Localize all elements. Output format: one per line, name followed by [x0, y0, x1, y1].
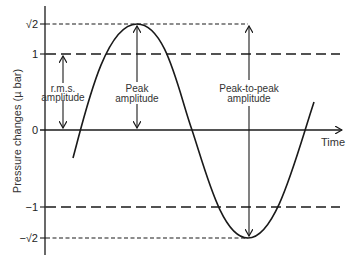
- tick-label-zero: 0: [32, 124, 38, 136]
- x-axis-title: Time: [321, 136, 345, 148]
- tick-label-sqrt2: √2: [26, 18, 38, 30]
- peak-label-line2: amplitude: [115, 93, 159, 104]
- tick-label-minus-one: −1: [25, 201, 38, 213]
- sine-wave-diagram: √2 1 0 −1 −√2 Pressure changes (µ bar) T…: [0, 0, 361, 262]
- rms-label-line2: amplitude: [41, 92, 85, 103]
- sine-wave-curve: [73, 24, 314, 238]
- peak-to-peak-label-line2: amplitude: [227, 93, 271, 104]
- y-axis-title: Pressure changes (µ bar): [11, 69, 23, 193]
- tick-label-minus-sqrt2: −√2: [19, 232, 38, 244]
- tick-label-one: 1: [32, 48, 38, 60]
